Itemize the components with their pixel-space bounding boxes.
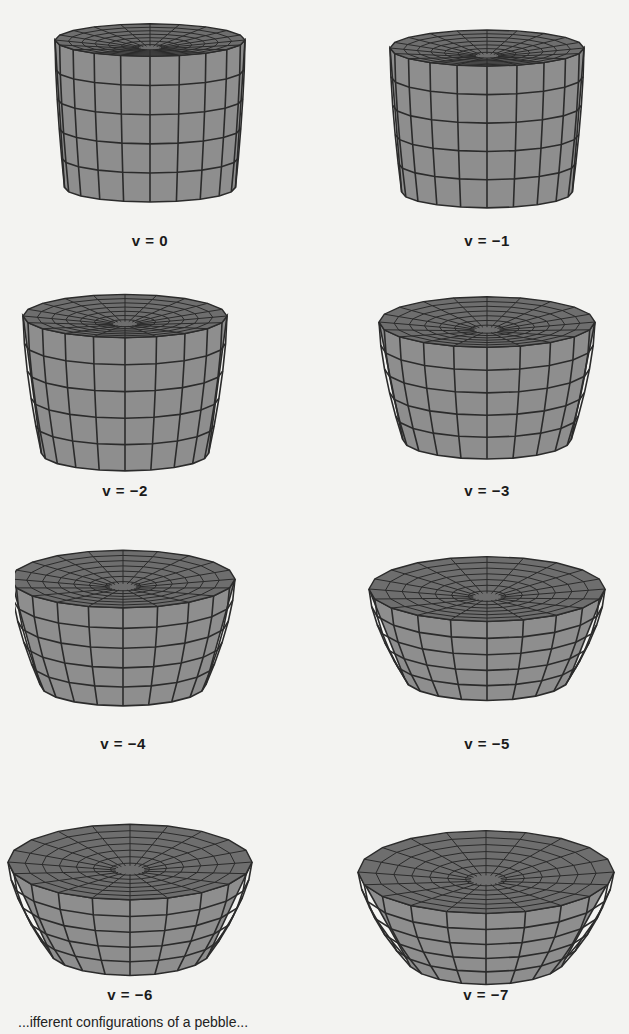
pebble-panel: v = −2: [15, 262, 315, 512]
pebble-mesh-illustration: [332, 0, 629, 250]
pebble-panel: v = −5: [330, 515, 629, 765]
pebble-mesh-illustration: [22, 0, 322, 250]
panel-label: v = −2: [0, 482, 275, 499]
pebble-panel: v = 0: [22, 0, 322, 250]
pebble-panel: v = −4: [15, 515, 315, 765]
pebble-panel: v = −6: [2, 790, 302, 1034]
pebble-mesh-illustration: [330, 262, 629, 512]
panel-label: v = −1: [337, 232, 629, 249]
panel-label: v = 0: [0, 232, 300, 249]
pebble-mesh-illustration: [15, 515, 315, 765]
pebble-mesh-illustration: [330, 515, 629, 765]
figure-caption-partial: ...ifferent configurations of a pebble..…: [18, 1014, 248, 1030]
panel-label: v = −3: [337, 482, 629, 499]
panel-label: v = −4: [0, 735, 273, 752]
pebble-panel: v = −3: [330, 262, 629, 512]
pebble-panel: v = −7: [330, 790, 629, 1034]
panel-label: v = −6: [0, 986, 280, 1003]
pebble-mesh-illustration: [15, 262, 315, 512]
pebble-panel: v = −1: [332, 0, 629, 250]
panel-label: v = −5: [337, 735, 629, 752]
panel-label: v = −7: [336, 986, 629, 1003]
